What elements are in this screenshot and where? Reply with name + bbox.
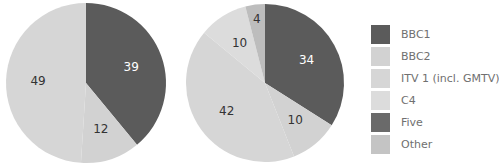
legend-swatch xyxy=(371,91,390,110)
legend-swatch xyxy=(371,25,390,44)
slice-value-label: 4 xyxy=(253,12,261,26)
pie-chart-right: 341042104 xyxy=(186,4,344,162)
legend-swatch xyxy=(371,69,390,88)
legend-item-five: Five xyxy=(371,111,499,133)
slice-value-label: 10 xyxy=(232,36,247,50)
legend-label: C4 xyxy=(401,94,416,107)
legend-swatch xyxy=(371,113,390,132)
slice-value-label: 42 xyxy=(219,104,234,118)
legend-item-itv1: ITV 1 (incl. GMTV) xyxy=(371,67,499,89)
slice-value-label: 12 xyxy=(93,122,108,136)
legend-item-c4: C4 xyxy=(371,89,499,111)
pie-chart-left: 391249 xyxy=(6,3,166,163)
legend-swatch xyxy=(371,135,390,154)
pie-slice-itv-1-incl-gmtv- xyxy=(6,3,86,163)
legend-label: BBC2 xyxy=(401,50,431,63)
pie-charts: 391249 341042104 xyxy=(0,0,360,167)
legend-label: Other xyxy=(401,138,432,151)
legend-item-other: Other xyxy=(371,133,499,155)
slice-value-label: 34 xyxy=(299,53,314,67)
legend-item-bbc2: BBC2 xyxy=(371,45,499,67)
slice-value-label: 10 xyxy=(288,113,303,127)
slice-value-label: 49 xyxy=(30,74,45,88)
legend-item-bbc1: BBC1 xyxy=(371,23,499,45)
legend-label: Five xyxy=(401,116,423,129)
slice-value-label: 39 xyxy=(124,60,139,74)
legend-label: ITV 1 (incl. GMTV) xyxy=(401,72,499,85)
legend-label: BBC1 xyxy=(401,28,431,41)
legend: BBC1 BBC2 ITV 1 (incl. GMTV) C4 Five Oth… xyxy=(371,23,499,155)
legend-swatch xyxy=(371,47,390,66)
